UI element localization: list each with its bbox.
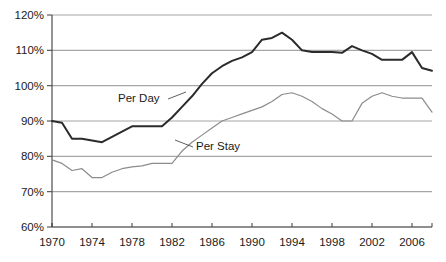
y-tick-label-60: 60% bbox=[21, 221, 44, 233]
y-tick-label-70: 70% bbox=[21, 186, 44, 198]
x-tick-label-1990: 1990 bbox=[239, 236, 265, 248]
chart-container: 120%110%100%90%80%70%60% 197019741978198… bbox=[0, 0, 446, 262]
line-chart: 120%110%100%90%80%70%60% 197019741978198… bbox=[0, 0, 446, 262]
x-tick-label-1974: 1974 bbox=[79, 236, 105, 248]
y-tick-label-110: 110% bbox=[15, 44, 44, 56]
y-tick-label-90: 90% bbox=[21, 115, 44, 127]
x-tick-label-1986: 1986 bbox=[199, 236, 225, 248]
x-tick-label-1994: 1994 bbox=[279, 236, 305, 248]
y-tick-label-120: 120% bbox=[15, 9, 44, 21]
x-tick-label-1998: 1998 bbox=[319, 236, 345, 248]
x-tick-label-2002: 2002 bbox=[359, 236, 385, 248]
y-tick-label-100: 100% bbox=[15, 80, 44, 92]
x-tick-label-1978: 1978 bbox=[119, 236, 145, 248]
series-label-per-day: Per Day bbox=[118, 92, 160, 104]
series-label-per-stay: Per Stay bbox=[196, 140, 240, 152]
x-tick-label-2006: 2006 bbox=[399, 236, 425, 248]
x-tick-label-1982: 1982 bbox=[159, 236, 185, 248]
x-tick-label-1970: 1970 bbox=[39, 236, 65, 248]
y-tick-label-80: 80% bbox=[21, 150, 44, 162]
